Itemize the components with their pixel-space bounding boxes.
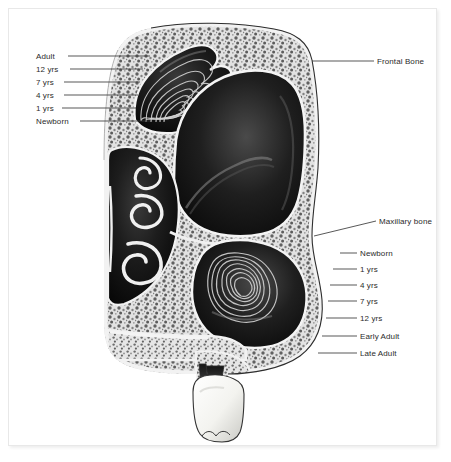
maxillary-sinus	[192, 240, 307, 348]
label-right-0: Newborn	[360, 249, 393, 258]
leader-maxillary-bone	[314, 221, 376, 236]
label-right-5: Early Adult	[360, 332, 399, 341]
label-right-1: 1 yrs	[360, 265, 378, 274]
label-right-3: 7 yrs	[360, 297, 378, 306]
callout-frontal-bone-0: Frontal Bone	[377, 57, 424, 66]
anatomical-illustration: Adult12 yrs7 yrs4 yrs1 yrsNewborn Newbor…	[0, 0, 451, 462]
label-left-2: 7 yrs	[36, 78, 54, 87]
callout-maxillary-bone-1: Maxillary bone	[379, 217, 432, 226]
skull-sagittal-section-svg	[0, 0, 451, 462]
label-right-6: Late Adult	[360, 349, 397, 358]
label-right-2: 4 yrs	[360, 281, 378, 290]
label-left-0: Adult	[36, 52, 55, 61]
skull-body	[95, 15, 340, 405]
figure-page: Adult12 yrs7 yrs4 yrs1 yrsNewborn Newbor…	[0, 0, 451, 462]
label-left-1: 12 yrs	[36, 65, 58, 74]
label-left-3: 4 yrs	[36, 91, 54, 100]
label-left-5: Newborn	[36, 117, 69, 126]
label-right-4: 12 yrs	[360, 314, 382, 323]
molar-tooth	[193, 364, 244, 442]
label-left-4: 1 yrs	[36, 104, 54, 113]
